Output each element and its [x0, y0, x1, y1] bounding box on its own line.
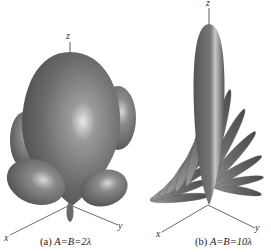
- panel-a-radiation-pattern: z x y (a) A=B=2λ: [0, 0, 150, 252]
- caption-b-equation: A=B=10λ: [210, 236, 252, 247]
- caption-b: (b) A=B=10λ: [195, 236, 252, 247]
- y-axis-label: y: [255, 222, 259, 233]
- panel-b-radiation-pattern: z x y (b) A=B=10λ: [150, 0, 271, 252]
- y-axis-label: y: [118, 220, 122, 231]
- caption-a-label: (a): [40, 236, 52, 247]
- radiation-pattern-3d-b: [150, 0, 271, 252]
- caption-a-equation: A=B=2λ: [54, 236, 91, 247]
- z-axis-label: z: [66, 30, 70, 41]
- x-axis-label: x: [156, 228, 160, 239]
- caption-b-label: (b): [195, 236, 207, 247]
- radiation-pattern-3d-a: [0, 0, 150, 252]
- x-axis-label: x: [4, 232, 8, 243]
- z-axis-label: z: [206, 0, 210, 8]
- caption-a: (a) A=B=2λ: [40, 236, 91, 247]
